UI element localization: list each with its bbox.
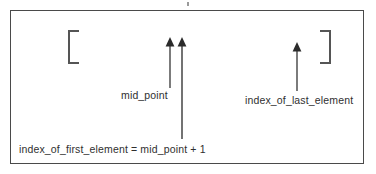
figure-canvas: mid_point index_of_last_element index_of…	[0, 0, 376, 174]
index-of-first-element-label: index_of_first_element = mid_point + 1	[19, 143, 206, 155]
last-element-arrow-icon	[291, 42, 303, 92]
open-bracket-icon	[68, 30, 79, 64]
first-element-arrow-icon	[176, 37, 188, 140]
index-of-last-element-label: index_of_last_element	[245, 94, 353, 106]
mid-point-label: mid_point	[121, 89, 168, 101]
close-bracket-icon	[320, 30, 331, 64]
scan-artifact-mark	[187, 2, 189, 6]
mid-point-arrow-icon	[164, 37, 176, 89]
